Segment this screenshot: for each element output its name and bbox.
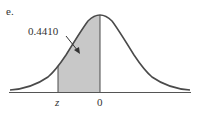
- x-tick-zero: 0: [97, 97, 103, 108]
- shaded-area: [58, 15, 100, 92]
- x-tick-z: z: [55, 97, 59, 108]
- shaded-area-label: 0.4410: [28, 26, 58, 37]
